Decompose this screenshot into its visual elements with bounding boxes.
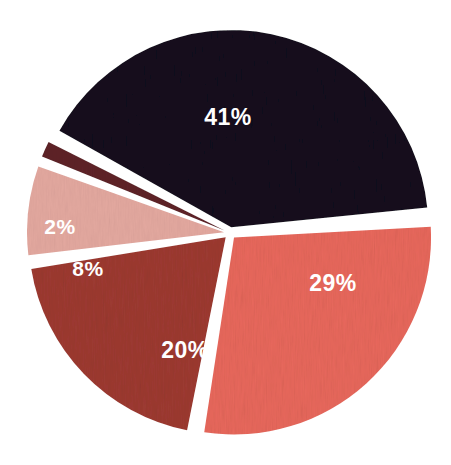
pie-slice-label-20: 20% — [161, 337, 209, 363]
pie-slice-label-2: 2% — [44, 215, 75, 238]
pie-slice-label-8: 8% — [72, 257, 103, 280]
pie-chart: 41%29%20%8%2% — [0, 0, 451, 465]
pie-slice-label-29: 29% — [309, 270, 357, 296]
pie-chart-svg: 41%29%20%8%2% — [0, 0, 451, 465]
pie-slice-label-41: 41% — [204, 104, 252, 130]
